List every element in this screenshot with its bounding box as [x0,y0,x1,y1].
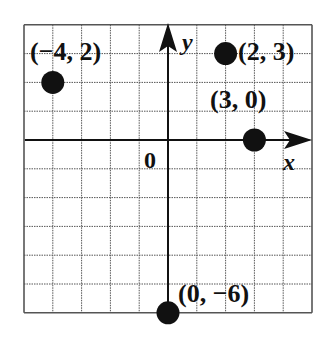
data-point [214,42,237,65]
origin-label: 0 [144,147,156,173]
axes [25,23,312,316]
x-axis-label: x [282,149,295,175]
point-label: (0, −6) [178,279,249,308]
coordinate-plane: x y 0 (−4, 2)(2, 3)(3, 0)(0, −6) [0,0,329,346]
y-axis-label: y [179,29,193,55]
data-point [157,301,180,324]
point-label: (−4, 2) [30,37,101,66]
point-label: (2, 3) [238,37,294,66]
point-label: (3, 0) [210,85,266,114]
data-point [243,129,266,152]
data-point [41,71,64,94]
